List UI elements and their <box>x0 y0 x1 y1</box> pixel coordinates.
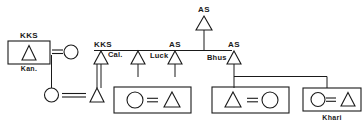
ego-male-triangle <box>22 46 36 61</box>
gen1-female-circle <box>45 88 59 102</box>
apex-as-group: AS <box>196 5 212 51</box>
gen2-bhus-label-above: AS <box>228 40 240 49</box>
kinship-diagram: KKS Kan. KKS Cal. <box>0 0 363 126</box>
ego-marriage-group <box>52 45 78 59</box>
gen2-cal-label-above: KKS <box>94 40 112 49</box>
household-khari-male-triangle <box>341 93 355 107</box>
gen2-cal-group: KKS Cal. <box>94 40 123 88</box>
gen2-bhus-triangle <box>227 51 241 64</box>
ego-box-label-above: KKS <box>20 31 38 40</box>
ego-household-group: KKS Kan. <box>8 31 50 72</box>
gen2-cal-triangle <box>94 51 108 64</box>
household-khari-female-circle <box>311 93 325 107</box>
gen1-male-triangle <box>90 88 104 102</box>
ego-box-label-below: Kan. <box>21 65 37 72</box>
gen2-plain-triangle <box>131 51 145 64</box>
apex-label-above: AS <box>198 5 210 14</box>
household-1-group <box>114 87 191 113</box>
household-2-male-triangle <box>225 92 241 107</box>
household-1-male-triangle <box>164 92 180 107</box>
gen1-marriage-group <box>45 88 105 102</box>
apex-as-triangle <box>196 16 212 30</box>
household-2-group <box>212 87 289 113</box>
gen2-luck-group: AS Luck <box>150 40 182 77</box>
gen2-plain-group <box>131 51 145 77</box>
household-2-female-circle <box>262 92 278 108</box>
household-khari-group: Khari <box>303 88 361 121</box>
ego-wife-circle <box>64 45 78 59</box>
gen2-bhus-label-side: Bhus <box>207 53 227 62</box>
household-1-box <box>114 87 191 113</box>
gen2-luck-label-side: Luck <box>150 51 169 60</box>
household-khari-label-below: Khari <box>322 114 341 121</box>
household-1-female-circle <box>127 92 143 108</box>
gen2-luck-label-above: AS <box>169 40 181 49</box>
gen2-luck-triangle <box>168 51 182 64</box>
gen2-cal-label-side: Cal. <box>108 50 123 59</box>
gen2-bhus-group: AS Bhus <box>207 40 327 88</box>
